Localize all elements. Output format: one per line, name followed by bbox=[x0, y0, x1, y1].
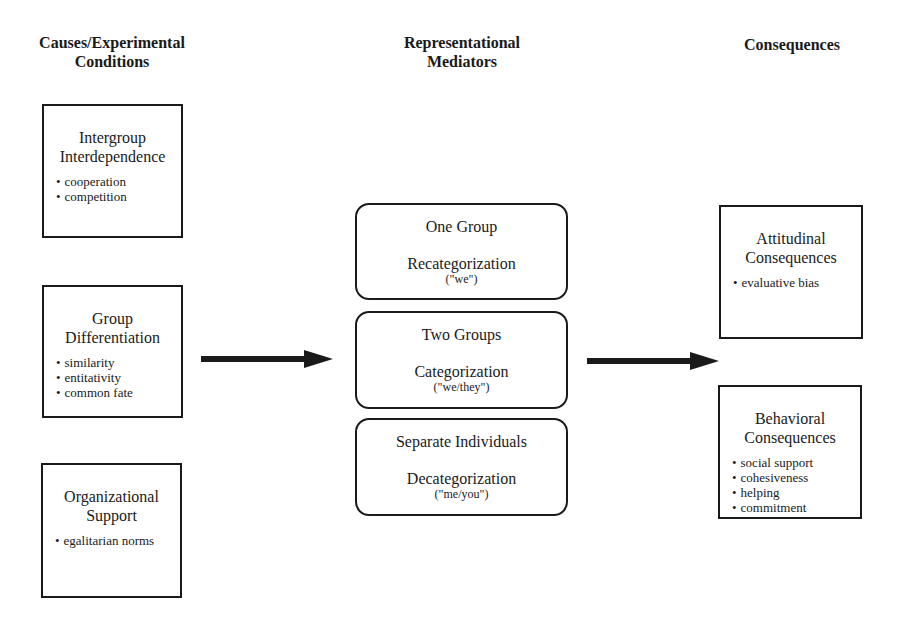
mediator-process: Decategorization bbox=[357, 470, 566, 488]
title-line: Differentiation bbox=[44, 328, 181, 347]
mediator-pronoun: ("we/they") bbox=[357, 381, 566, 393]
list-item: evaluative bias bbox=[733, 275, 861, 290]
cause-box-items: cooperation competition bbox=[44, 174, 181, 204]
mediator-label: One Group bbox=[357, 217, 566, 236]
header-causes: Causes/Experimental Conditions bbox=[20, 33, 204, 71]
cause-box-title: Intergroup Interdependence bbox=[44, 128, 181, 166]
title-line: Support bbox=[43, 506, 180, 525]
consequence-box-items: evaluative bias bbox=[721, 275, 861, 290]
title-line: Group bbox=[44, 309, 181, 328]
title-line: Behavioral bbox=[720, 409, 860, 428]
arrow-right-icon bbox=[200, 349, 334, 369]
arrow-right-icon bbox=[586, 351, 720, 371]
mediator-box-one-group: One Group Recategorization ("we") bbox=[355, 203, 568, 300]
title-line: Intergroup bbox=[44, 128, 181, 147]
list-item: commitment bbox=[732, 500, 860, 515]
list-item: helping bbox=[732, 485, 860, 500]
list-item: common fate bbox=[56, 385, 181, 400]
mediator-process: Recategorization bbox=[357, 255, 566, 273]
list-item: social support bbox=[732, 455, 860, 470]
title-line: Interdependence bbox=[44, 147, 181, 166]
cause-box-intergroup-interdependence: Intergroup Interdependence cooperation c… bbox=[42, 104, 183, 238]
cause-box-organizational-support: Organizational Support egalitarian norms bbox=[41, 463, 182, 598]
header-consequences: Consequences bbox=[730, 35, 854, 54]
title-line: Organizational bbox=[43, 487, 180, 506]
header-causes-line2: Conditions bbox=[20, 52, 204, 71]
mediator-box-two-groups: Two Groups Categorization ("we/they") bbox=[355, 311, 568, 409]
mediator-process: Categorization bbox=[357, 363, 566, 381]
mediator-pronoun: ("me/you") bbox=[357, 488, 566, 500]
consequence-box-items: social support cohesiveness helping comm… bbox=[720, 455, 860, 515]
cause-box-items: similarity entitativity common fate bbox=[44, 355, 181, 400]
cause-box-title: Organizational Support bbox=[43, 487, 180, 525]
list-item: egalitarian norms bbox=[55, 533, 180, 548]
mediator-box-separate-individuals: Separate Individuals Decategorization ("… bbox=[355, 418, 568, 516]
consequence-box-title: Attitudinal Consequences bbox=[721, 229, 861, 267]
list-item: competition bbox=[56, 189, 181, 204]
list-item: entitativity bbox=[56, 370, 181, 385]
consequence-box-behavioral: Behavioral Consequences social support c… bbox=[718, 385, 862, 519]
cause-box-group-differentiation: Group Differentiation similarity entitat… bbox=[42, 285, 183, 418]
mediator-label: Separate Individuals bbox=[357, 432, 566, 451]
list-item: cooperation bbox=[56, 174, 181, 189]
header-consequences-line1: Consequences bbox=[730, 35, 854, 54]
title-line: Attitudinal bbox=[721, 229, 861, 248]
list-item: similarity bbox=[56, 355, 181, 370]
header-causes-line1: Causes/Experimental bbox=[20, 33, 204, 52]
mediator-pronoun: ("we") bbox=[357, 273, 566, 285]
header-mediators: Representational Mediators bbox=[380, 33, 544, 71]
cause-box-title: Group Differentiation bbox=[44, 309, 181, 347]
consequence-box-attitudinal: Attitudinal Consequences evaluative bias bbox=[719, 205, 863, 339]
title-line: Consequences bbox=[721, 248, 861, 267]
header-mediators-line2: Mediators bbox=[380, 52, 544, 71]
mediator-label: Two Groups bbox=[357, 325, 566, 344]
title-line: Consequences bbox=[720, 428, 860, 447]
cause-box-items: egalitarian norms bbox=[43, 533, 180, 548]
list-item: cohesiveness bbox=[732, 470, 860, 485]
header-mediators-line1: Representational bbox=[380, 33, 544, 52]
consequence-box-title: Behavioral Consequences bbox=[720, 409, 860, 447]
